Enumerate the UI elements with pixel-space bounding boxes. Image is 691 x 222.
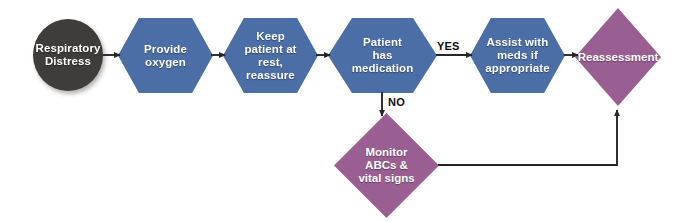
flowchart-canvas: Respiratory Distress Provide oxygen Keep… [0,0,691,222]
edge-label-no: NO [388,96,405,108]
connector-layer [0,0,691,222]
edge-label-yes: YES [437,40,460,52]
node-monitor-abcs-label: Monitor ABCs & vital signs [334,143,439,187]
node-reassessment-label: Reassessment [566,44,670,70]
connector-monitor-to-reassessment [438,110,617,165]
